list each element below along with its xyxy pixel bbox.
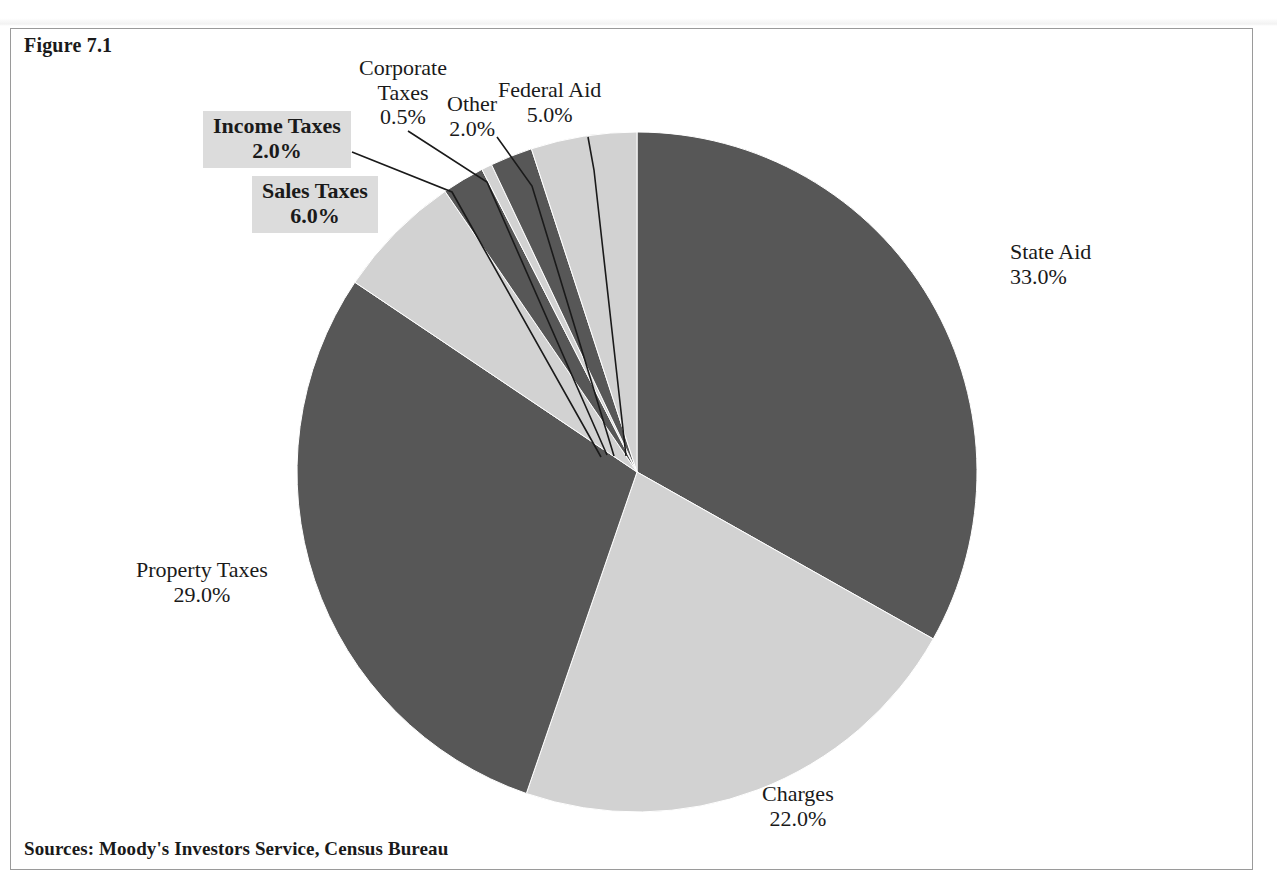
slice-label-income-taxes-name: Income Taxes [213,114,341,139]
slice-label-state-aid: State Aid 33.0% [1010,240,1091,289]
slice-label-corporate-taxes-name2: Taxes [359,81,447,106]
slice-label-sales-taxes: Sales Taxes 6.0% [252,176,378,233]
slice-label-sales-taxes-value: 6.0% [262,204,368,229]
slice-label-state-aid-value: 33.0% [1010,265,1091,290]
slice-label-federal-aid-value: 5.0% [498,103,601,128]
slice-label-property-taxes-name: Property Taxes [136,558,268,583]
slice-label-corporate-taxes: Corporate Taxes 0.5% [359,56,447,130]
slice-label-state-aid-name: State Aid [1010,240,1091,265]
pie-chart-svg [0,0,1277,892]
slice-label-charges: Charges 22.0% [762,782,834,831]
slice-label-federal-aid-name: Federal Aid [498,78,601,103]
slice-label-other-name: Other [447,92,497,117]
slice-label-charges-name: Charges [762,782,834,807]
slice-label-sales-taxes-name: Sales Taxes [262,179,368,204]
slice-label-charges-value: 22.0% [762,807,834,832]
slice-label-corporate-taxes-name: Corporate [359,56,447,81]
slice-label-property-taxes-value: 29.0% [136,583,268,608]
slice-label-property-taxes: Property Taxes 29.0% [136,558,268,607]
slice-label-corporate-taxes-value: 0.5% [359,105,447,130]
slice-label-other: Other 2.0% [447,92,497,141]
sources-note: Sources: Moody's Investors Service, Cens… [24,838,448,860]
slice-label-income-taxes: Income Taxes 2.0% [203,111,351,168]
pie-chart: State Aid 33.0% Charges 22.0% Property T… [0,0,1277,892]
slice-label-income-taxes-value: 2.0% [213,139,341,164]
slice-label-other-value: 2.0% [447,117,497,142]
pie-slice-group [297,132,977,812]
slice-label-federal-aid: Federal Aid 5.0% [498,78,601,127]
